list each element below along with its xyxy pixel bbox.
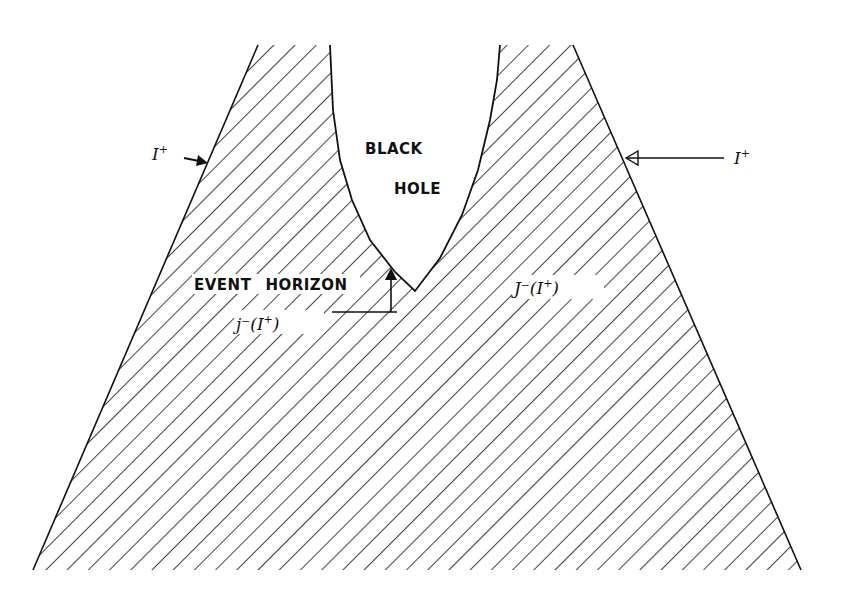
black-hole-spacetime-diagram: BLACK HOLE I+ I+ EVENTHORIZON j⁻(I+) J⁻(… [0, 0, 846, 607]
exterior-region [0, 0, 846, 607]
scri-plus-right-label: I+ [733, 147, 750, 168]
black-label: BLACK [365, 140, 424, 158]
event-horizon-label: EVENTHORIZON [194, 276, 348, 294]
scri-plus-right: I+ [626, 147, 750, 168]
scri-plus-left-label: I+ [151, 143, 168, 164]
past-of-scri-region-label: J⁻(I+) [511, 277, 559, 298]
hole-label: HOLE [394, 180, 441, 198]
scri-plus-left: I+ [151, 143, 208, 166]
past-of-scri-boundary-label: j⁻(I+) [232, 313, 279, 334]
